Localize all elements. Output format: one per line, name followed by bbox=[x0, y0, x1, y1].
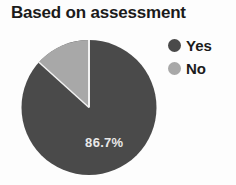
legend-label-no: No bbox=[186, 61, 206, 76]
legend-marker-no-icon bbox=[168, 62, 181, 75]
legend-marker-yes-icon bbox=[168, 39, 181, 52]
chart-title: Based on assessment bbox=[11, 2, 186, 24]
pie-plot-area: 86.7% bbox=[21, 39, 157, 176]
pie-chart-figure: Based on assessment 86.7% Yes No bbox=[0, 0, 236, 185]
pie-svg bbox=[21, 39, 157, 176]
legend-label-yes: Yes bbox=[186, 38, 212, 53]
chart-legend: Yes No bbox=[168, 34, 236, 80]
legend-item-yes[interactable]: Yes bbox=[168, 34, 236, 57]
legend-item-no[interactable]: No bbox=[168, 57, 236, 80]
